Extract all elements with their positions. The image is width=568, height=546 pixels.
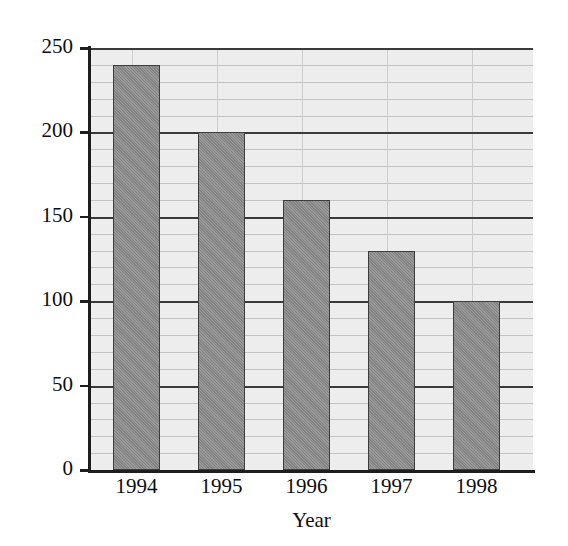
x-axis-title: Year <box>90 508 533 533</box>
plot-area <box>90 48 533 470</box>
bar-chart-figure: Profits (millions of dollars) <box>0 0 568 546</box>
bar-1998[interactable] <box>453 301 500 470</box>
y-tick-label-50: 50 <box>0 372 73 397</box>
bar-1997[interactable] <box>368 251 415 470</box>
y-tick-mark-100 <box>80 300 89 303</box>
y-tick-label-250: 250 <box>0 34 73 59</box>
y-tick-label-200: 200 <box>0 118 73 143</box>
bar-1994[interactable] <box>113 65 160 470</box>
bar-1995[interactable] <box>198 132 245 470</box>
bar-1996[interactable] <box>283 200 330 470</box>
x-tick-label-1998: 1998 <box>427 474 527 499</box>
y-tick-mark-250 <box>80 47 89 50</box>
y-tick-mark-150 <box>80 216 89 219</box>
y-tick-mark-50 <box>80 385 89 388</box>
y-tick-mark-0 <box>80 469 89 472</box>
y-axis-line <box>88 46 91 472</box>
x-axis-line <box>88 470 535 473</box>
y-tick-label-0: 0 <box>0 456 73 481</box>
y-tick-mark-200 <box>80 131 89 134</box>
y-tick-label-150: 150 <box>0 203 73 228</box>
y-tick-label-100: 100 <box>0 287 73 312</box>
major-gridline-250 <box>90 48 533 50</box>
